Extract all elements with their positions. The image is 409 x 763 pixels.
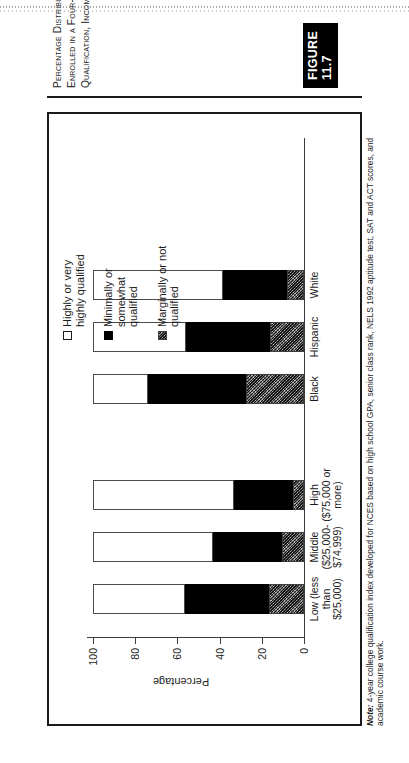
bar-segment-marginally-or-not-qualified bbox=[287, 270, 304, 300]
bar-segment-highly-or-very-highly-qualified bbox=[93, 584, 185, 614]
y-axis-tick bbox=[93, 638, 94, 644]
bar-segment-highly-or-very-highly-qualified bbox=[93, 480, 234, 510]
y-axis-tick-label: 80 bbox=[129, 648, 141, 660]
bar-segment-minimally-or-somewhat-qualified bbox=[222, 270, 286, 300]
bar-segment-minimally-or-somewhat-qualified bbox=[184, 584, 268, 614]
category-axis-label: White bbox=[309, 239, 321, 331]
chart-bar bbox=[93, 584, 304, 614]
chart-legend: Highly or very highly qualified Minimall… bbox=[61, 130, 197, 340]
bar-segment-highly-or-very-highly-qualified bbox=[93, 374, 148, 404]
bar-segment-minimally-or-somewhat-qualified bbox=[213, 532, 282, 562]
bar-segment-marginally-or-not-qualified bbox=[293, 480, 304, 510]
legend-item: Minimally or somewhat qualified bbox=[102, 130, 140, 340]
chart-bar bbox=[93, 532, 304, 562]
y-axis-tick-label: 20 bbox=[255, 648, 267, 660]
y-axis-tick-label: 0 bbox=[298, 648, 310, 654]
figure-note-label: Note: bbox=[365, 704, 375, 725]
legend-swatch-highly-qualified-icon bbox=[63, 331, 72, 340]
y-axis-tick bbox=[304, 638, 305, 644]
y-axis-tick bbox=[261, 638, 262, 644]
legend-label: Marginally or not qualified bbox=[155, 245, 180, 326]
y-axis-tick bbox=[135, 638, 136, 644]
chart-bar bbox=[93, 374, 304, 404]
figure-caption: Percentage Distribution of All 1992 High… bbox=[51, 0, 93, 88]
y-axis-tick-label: 100 bbox=[87, 648, 99, 666]
legend-item: Marginally or not qualified bbox=[155, 130, 180, 340]
chart-bar bbox=[93, 480, 304, 510]
bar-segment-highly-or-very-highly-qualified bbox=[93, 532, 213, 562]
y-axis-title: Percentage bbox=[121, 676, 241, 688]
bar-segment-marginally-or-not-qualified bbox=[281, 532, 303, 562]
rotated-page-wrapper: Percentage 020406080100Low (lessthan$25,… bbox=[0, 0, 409, 763]
legend-label: Minimally or somewhat qualified bbox=[102, 268, 140, 327]
legend-swatch-marginally-qualified-icon bbox=[157, 331, 166, 340]
legend-label: Highly or very highly qualified bbox=[61, 254, 86, 327]
bar-segment-minimally-or-somewhat-qualified bbox=[234, 480, 293, 510]
legend-item: Highly or very highly qualified bbox=[61, 130, 86, 340]
legend-swatch-minimally-qualified-icon bbox=[104, 331, 113, 340]
category-axis-label: High($75,000 ormore) bbox=[309, 449, 344, 541]
figure-number-badge: FIGURE 11.7 bbox=[303, 22, 338, 87]
bar-segment-marginally-or-not-qualified bbox=[270, 322, 304, 352]
bar-segment-marginally-or-not-qualified bbox=[269, 584, 304, 614]
bar-segment-minimally-or-somewhat-qualified bbox=[147, 374, 245, 404]
figure-note: Note: 4-year college qualification index… bbox=[365, 112, 385, 726]
y-axis-tick-label: 40 bbox=[213, 648, 225, 660]
value-axis-line bbox=[87, 637, 305, 638]
y-axis-tick bbox=[219, 638, 220, 644]
figure-page: Percentage 020406080100Low (lessthan$25,… bbox=[35, 32, 375, 732]
y-axis-tick-label: 60 bbox=[171, 648, 183, 660]
y-axis-tick bbox=[177, 638, 178, 644]
figure-note-body: 4-year college qualification index devel… bbox=[365, 137, 385, 725]
bar-segment-marginally-or-not-qualified bbox=[245, 374, 303, 404]
bar-segment-minimally-or-somewhat-qualified bbox=[185, 322, 269, 352]
